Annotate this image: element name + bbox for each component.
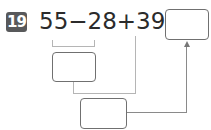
step2-box[interactable] (80, 98, 127, 129)
arrow-up-icon (184, 41, 190, 47)
bracket-bottom (52, 46, 95, 47)
step1-box[interactable] (52, 52, 96, 82)
answer-box[interactable] (165, 9, 209, 40)
connector-39-down (135, 36, 136, 94)
connector-horizontal (73, 93, 136, 94)
problem-number-badge: 19 (6, 12, 27, 32)
connector-to-answer-up (186, 46, 187, 113)
connector-step2-right (127, 112, 187, 113)
math-expression: 55−28+39= (39, 8, 185, 34)
